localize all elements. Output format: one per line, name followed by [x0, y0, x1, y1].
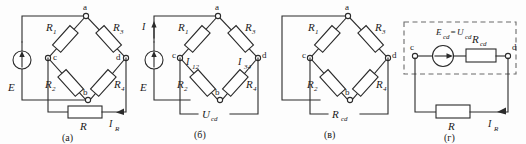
node-c-label-b: c [172, 50, 176, 60]
node-a-label-v: a [345, 2, 349, 12]
resistor-r3-label-a: R [112, 21, 120, 33]
current-i12-sub-b: 12 [192, 63, 200, 71]
current-ir-label-a: I [108, 118, 113, 129]
resistor-r3-sub-a: 3 [119, 28, 124, 36]
current-i34-sub-b: 34 [243, 63, 252, 71]
resistor-r3-label-v: R [374, 21, 382, 33]
resistor-r1-label-a: R [45, 21, 53, 33]
resistor-r1-sub-v: 1 [315, 28, 319, 36]
resistor-r4-b [223, 70, 249, 97]
resistor-load-label-a: R [79, 120, 87, 132]
panel-v: R 1 R 3 R 2 R 4 a c d b R cd (в) [262, 0, 402, 144]
node-c-label-g: c [410, 42, 414, 52]
resistor-r2-b [190, 70, 216, 97]
node-c-label-a: c [53, 52, 57, 62]
caption-panel-b: (б) [194, 129, 206, 141]
caption-panel-g: (г) [444, 132, 455, 144]
node-d-label-a: d [116, 52, 121, 62]
resistor-load-a [68, 106, 102, 118]
current-ir-sub-a: R [114, 125, 120, 133]
resistance-rcd-sub-v: cd [341, 115, 348, 123]
panel-g-wire-c-down-to-load [415, 58, 436, 112]
resistor-r3-sub-v: 3 [381, 28, 386, 36]
resistance-rcd-sub-g: cd [480, 40, 487, 48]
resistance-rcd-label-g: R [471, 33, 479, 45]
resistor-r4-sub-a: 4 [121, 85, 125, 93]
node-a-terminal-v [345, 13, 350, 18]
node-d-label-g: d [512, 42, 517, 52]
resistor-r4-label-a: R [113, 78, 121, 90]
source-label-a: E [7, 81, 15, 93]
node-a-label-b: a [215, 2, 219, 12]
node-a-terminal-b [215, 13, 220, 18]
node-b-terminal-a [85, 97, 90, 102]
resistor-r3-label-b: R [244, 21, 252, 33]
resistor-r2-sub-a: 2 [52, 85, 56, 93]
current-ir-sub-g: R [493, 125, 499, 133]
panel-g: E cd = U cd c R cd d R I R [392, 0, 526, 144]
current-ir-arrow-g [497, 108, 506, 115]
resistor-r4-a [91, 70, 117, 97]
current-ir-label-g: I [487, 118, 492, 129]
caption-panel-a: (а) [62, 132, 73, 144]
node-c-label-v: c [302, 50, 306, 60]
resistor-r4-label-b: R [245, 78, 253, 90]
resistor-r2-v [320, 70, 346, 97]
resistor-r4-label-v: R [375, 78, 383, 90]
resistor-r2-a [58, 70, 84, 97]
current-i34-label-b: I [237, 56, 242, 67]
emf-equation-right-g: U [457, 27, 464, 37]
resistance-rcd-label-v: R [331, 108, 339, 120]
node-b-label-v: b [345, 87, 350, 97]
resistor-r2-sub-b: 2 [184, 85, 188, 93]
resistor-r4-sub-v: 4 [383, 85, 387, 93]
resistor-r4-v [353, 70, 379, 97]
node-b-terminal-b [217, 97, 222, 102]
node-a-label-a: a [83, 2, 87, 12]
resistor-r2-sub-v: 2 [314, 85, 318, 93]
emf-equation-left-g: E [435, 27, 442, 37]
node-a-terminal-a [83, 13, 88, 18]
panel-b: E I R 1 R 3 R 2 R 4 a [132, 0, 272, 144]
resistor-r1-label-v: R [307, 21, 315, 33]
source-label-b: E [139, 81, 147, 93]
current-i-arrow-b [151, 21, 156, 28]
panel-g-wire-load-to-d [470, 58, 508, 112]
caption-panel-v: (в) [324, 129, 335, 141]
resistor-r1-sub-a: 1 [53, 28, 57, 36]
resistor-load-g [436, 105, 470, 118]
resistor-r1-label-b: R [177, 21, 185, 33]
resistor-rcd-g [466, 49, 496, 62]
voltage-ucd-label-b: U [202, 108, 211, 120]
current-i12-label-b: I [185, 56, 190, 67]
voltage-ucd-sub-b: cd [211, 115, 218, 123]
panel-a: E R 1 R 3 R 2 R 4 [0, 0, 140, 144]
circuit-figure: E R 1 R 3 R 2 R 4 [0, 0, 526, 144]
emf-equation-equals-g: = [450, 27, 456, 37]
resistor-load-label-g: R [447, 120, 455, 132]
resistor-r1-sub-b: 1 [185, 28, 189, 36]
node-b-terminal-v [347, 97, 352, 102]
node-b-label-b: b [215, 87, 220, 97]
node-b-label-a: b [83, 87, 88, 97]
resistor-r4-sub-b: 4 [253, 85, 257, 93]
resistor-r3-sub-b: 3 [251, 28, 256, 36]
current-i-label-b: I [141, 21, 146, 32]
